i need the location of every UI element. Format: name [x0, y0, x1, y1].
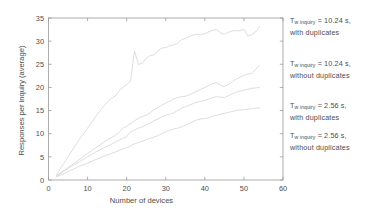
x-tick-label: 40	[201, 184, 209, 193]
legend-entry-2: Tw inquiry = 10.24 s,without duplicates	[290, 59, 351, 80]
series-line-2	[56, 65, 259, 176]
y-tick-label: 10	[36, 129, 44, 138]
legend-entry-1: Tw inquiry = 10.24 s,with duplicates	[290, 16, 351, 37]
series-line-1	[56, 26, 259, 175]
y-axis-label: Responses per inquiry (average)	[17, 26, 26, 176]
x-tick-label: 30	[162, 184, 170, 193]
x-axis-label: Number of devices	[0, 196, 283, 205]
series-line-4	[56, 108, 259, 177]
x-tick-label: 60	[279, 184, 287, 193]
legend-subscript: w inquiry	[295, 134, 316, 140]
axis-frame	[49, 18, 284, 180]
chart-figure: 0102030405060 05101520253035 Number of d…	[0, 0, 373, 216]
legend-entry-4-line1: Tw inquiry = 2.56 s,	[290, 131, 350, 143]
y-tick-label: 15	[36, 106, 44, 115]
legend-value: = 2.56 s,	[315, 101, 346, 110]
legend-entry-2-line1: Tw inquiry = 10.24 s,	[290, 59, 351, 71]
y-tick-label: 30	[36, 37, 44, 46]
legend-subscript: w inquiry	[295, 104, 316, 110]
y-tick-label: 20	[36, 83, 44, 92]
x-axis-ticks: 0102030405060	[46, 18, 287, 193]
legend-entry-4: Tw inquiry = 2.56 s,without duplicates	[290, 131, 350, 152]
legend-value: = 10.24 s,	[315, 59, 350, 68]
legend-entry-3: Tw inquiry = 2.56 s,with duplicates	[290, 101, 347, 122]
legend-entry-4-line2: without duplicates	[290, 143, 350, 153]
y-tick-label: 0	[40, 176, 44, 185]
legend-entry-1-line2: with duplicates	[290, 28, 351, 38]
legend-entry-3-line1: Tw inquiry = 2.56 s,	[290, 101, 347, 113]
x-tick-label: 20	[123, 184, 131, 193]
legend-entry-1-line1: Tw inquiry = 10.24 s,	[290, 16, 351, 28]
x-tick-label: 10	[83, 184, 91, 193]
x-tick-label: 0	[46, 184, 50, 193]
legend-subscript: w inquiry	[295, 19, 316, 25]
x-tick-label: 50	[240, 184, 248, 193]
data-series-group	[56, 26, 259, 176]
legend-entry-2-line2: without duplicates	[290, 71, 351, 81]
legend-value: = 10.24 s,	[315, 16, 350, 25]
legend-value: = 2.56 s,	[315, 131, 346, 140]
y-tick-label: 25	[36, 60, 44, 69]
y-axis-ticks: 05101520253035	[36, 14, 283, 185]
legend-entry-3-line2: with duplicates	[290, 113, 347, 123]
legend-subscript: w inquiry	[295, 62, 316, 68]
y-tick-label: 35	[36, 14, 44, 23]
y-tick-label: 5	[40, 153, 44, 162]
